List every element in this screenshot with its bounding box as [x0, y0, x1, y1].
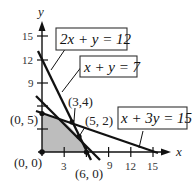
equation-box-2x-plus-y-eq-12: 2x + y = 12 [56, 28, 132, 50]
y-tick-label-15: 15 [22, 30, 34, 42]
x-axis-arrow-icon [161, 149, 171, 156]
x-tick-label-15: 15 [147, 160, 159, 172]
x-tick-label-3: 3 [61, 160, 67, 172]
feasible-region [42, 114, 86, 153]
y-axis-label: y [36, 4, 44, 19]
x-axis-label: x [175, 144, 182, 159]
y-tick-label-9: 9 [28, 77, 34, 89]
x-tick-label-9: 9 [107, 159, 113, 171]
x-tick-label-12: 12 [125, 160, 136, 172]
vertex-label-3-4: (3,4) [68, 94, 93, 109]
vertex-label-5-2: (5, 2) [85, 113, 113, 128]
feasible-region-diagram: y x 15 12 9 3 9 12 15 2x + y = 12 x + y … [0, 0, 196, 182]
vertex-label-0-0: (0, 0) [14, 155, 42, 170]
svg-text:x + 3y = 15: x + 3y = 15 [120, 110, 193, 126]
y-axis-arrow-icon [39, 21, 46, 31]
y-tick-label-12: 12 [22, 54, 33, 66]
equation-box-x-plus-3y-eq-15: x + 3y = 15 [118, 107, 193, 129]
vertex-label-6-0: (6, 0) [75, 166, 103, 181]
vertex-label-0-5: (0, 5) [10, 112, 38, 127]
equation-box-x-plus-y-eq-7: x + y = 7 [80, 56, 142, 77]
svg-text:2x + y = 12: 2x + y = 12 [60, 31, 132, 47]
svg-text:x + y = 7: x + y = 7 [83, 59, 142, 75]
